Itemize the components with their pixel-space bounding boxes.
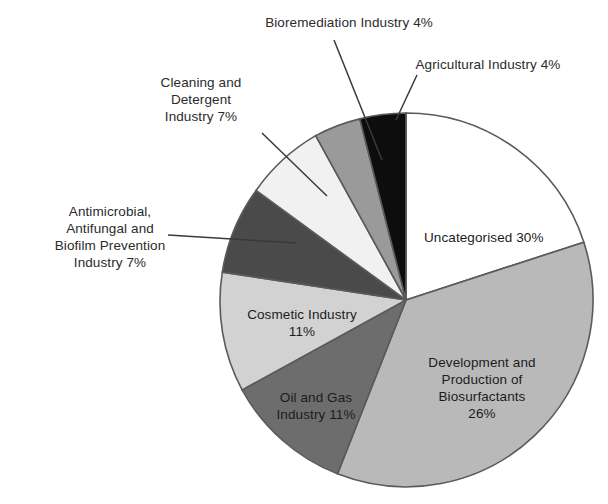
label-cosmetic: Cosmetic Industry 11% xyxy=(224,306,380,340)
label-bioremediation: Bioremediation Industry 4% xyxy=(214,14,484,31)
label-cleaning-and-detergent: Cleaning and Detergent Industry 7% xyxy=(126,74,276,125)
label-development: Development and Production of Biosurfact… xyxy=(404,354,560,422)
pie-chart-figure: Bioremediation Industry 4% Agricultural … xyxy=(0,0,608,504)
label-uncategorised: Uncategorised 30% xyxy=(424,229,594,246)
label-agricultural: Agricultural Industry 4% xyxy=(388,56,588,73)
label-antimicrobial: Antimicrobial, Antifungal and Biofilm Pr… xyxy=(8,203,212,271)
label-oil-and-gas: Oil and Gas Industry 11% xyxy=(246,389,386,423)
